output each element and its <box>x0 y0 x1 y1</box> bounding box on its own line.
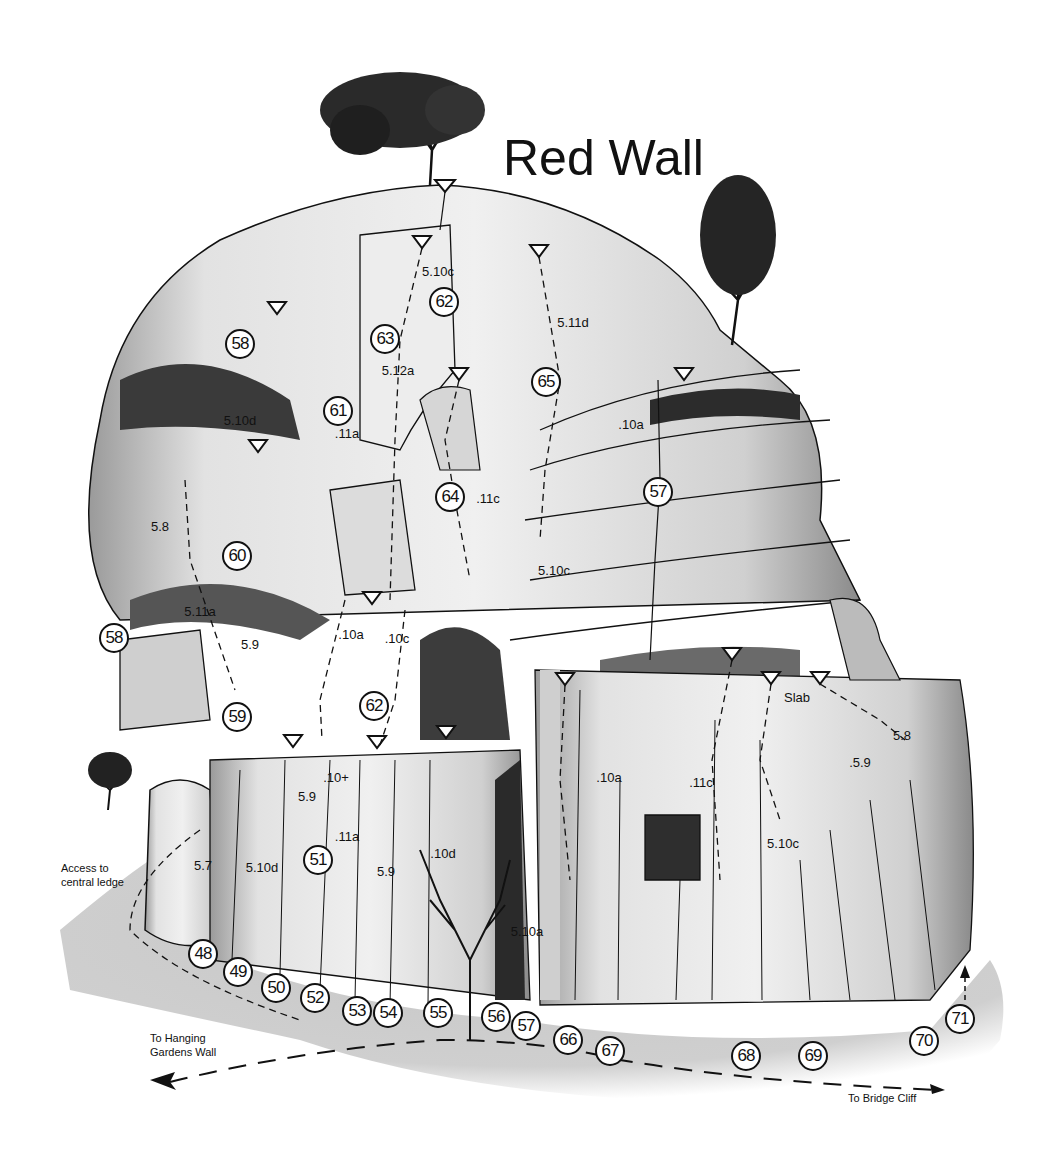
route-number-marker: 55 <box>423 998 453 1028</box>
grade-label: 5.10c <box>767 837 799 850</box>
route-number-marker: 53 <box>342 996 372 1026</box>
hanging-gardens-note: To Hanging Gardens Wall <box>150 1032 216 1060</box>
hanging-gardens-line1: To Hanging <box>150 1032 216 1046</box>
grade-label: 5.11a <box>184 605 216 618</box>
route-number-marker: 67 <box>595 1036 625 1066</box>
grade-label: 5.10d <box>224 414 257 427</box>
route-number-marker: 66 <box>553 1025 583 1055</box>
grade-label: .11c <box>689 776 713 789</box>
grade-label: .10a <box>618 418 643 431</box>
route-number-marker: 51 <box>303 845 333 875</box>
access-note-line2: central ledge <box>61 876 124 890</box>
route-number-marker: 64 <box>435 482 465 512</box>
grade-label: .5.9 <box>849 756 871 769</box>
route-number-marker: 58 <box>99 623 129 653</box>
route-number-marker: 57 <box>643 477 673 507</box>
route-number-marker: 62 <box>429 287 459 317</box>
grade-label: 5.11d <box>557 316 589 329</box>
route-number-marker: 59 <box>222 702 252 732</box>
grade-label: 5.9 <box>298 790 316 803</box>
grade-label: 5.9 <box>241 638 259 651</box>
route-number-marker: 62 <box>359 691 389 721</box>
tree-top <box>320 72 485 185</box>
route-number-marker: 61 <box>323 396 353 426</box>
grade-label: 5.10a <box>511 925 544 938</box>
grade-label: .10d <box>430 847 455 860</box>
grade-label: 5.10c <box>538 564 570 577</box>
route-number-marker: 69 <box>798 1041 828 1071</box>
access-note-line1: Access to <box>61 862 124 876</box>
route-number-marker: 71 <box>945 1004 975 1034</box>
grade-label: .10c <box>385 632 410 645</box>
route-number-marker: 54 <box>373 998 403 1028</box>
grade-label: .10a <box>338 628 363 641</box>
grade-label: .10+ <box>323 771 349 784</box>
grade-label: .11a <box>335 830 359 843</box>
grade-label: 5.7 <box>194 859 212 872</box>
route-number-marker: 48 <box>188 939 218 969</box>
route-number-marker: 52 <box>300 983 330 1013</box>
route-number-marker: 63 <box>370 324 400 354</box>
grade-label: 5.10c <box>422 265 454 278</box>
route-number-marker: 68 <box>731 1041 761 1071</box>
grade-label: 5.12a <box>382 364 415 377</box>
grade-label: 5.9 <box>377 865 395 878</box>
hanging-gardens-line2: Gardens Wall <box>150 1046 216 1060</box>
tree-left-small <box>88 752 132 810</box>
route-number-marker: 58 <box>225 329 255 359</box>
bridge-cliff-note: To Bridge Cliff <box>848 1092 916 1106</box>
route-number-marker: 57 <box>511 1011 541 1041</box>
grade-label: .10a <box>596 771 621 784</box>
access-note: Access to central ledge <box>61 862 124 890</box>
route-number-marker: 56 <box>481 1002 511 1032</box>
route-number-marker: 60 <box>222 541 252 571</box>
route-number-marker: 70 <box>909 1026 939 1056</box>
grade-label: 5.8 <box>893 729 911 742</box>
route-number-marker: 49 <box>223 957 253 987</box>
page-title: Red Wall <box>503 133 704 183</box>
grade-label: 5.8 <box>151 520 169 533</box>
route-number-marker: 65 <box>531 367 561 397</box>
grade-label: .11c <box>476 492 500 505</box>
grade-label: 5.10d <box>246 861 279 874</box>
route-number-marker: 50 <box>261 973 291 1003</box>
grade-label: Slab <box>784 691 810 704</box>
grade-label: .11a <box>335 427 359 440</box>
